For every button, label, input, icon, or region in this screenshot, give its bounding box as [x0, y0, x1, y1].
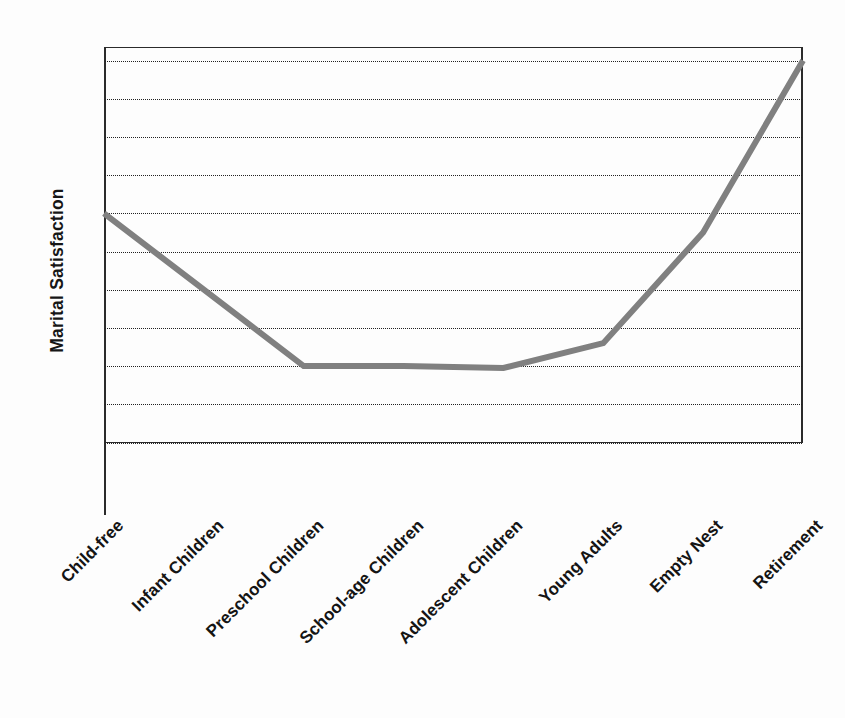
y-axis-title: Marital Satisfaction [40, 140, 74, 400]
plot-area [104, 47, 803, 515]
series-line-marital-satisfaction [104, 61, 803, 369]
x-tick-label: Empty Nest [646, 516, 727, 597]
x-tick-label: Young Adults [536, 516, 628, 608]
line-series-svg [100, 43, 807, 519]
chart-figure: Marital Satisfaction Child-freeInfant Ch… [0, 0, 845, 718]
y-axis-title-text: Marital Satisfaction [47, 188, 68, 352]
x-tick-label: Retirement [749, 516, 827, 594]
x-tick-label: Infant Children [128, 516, 228, 616]
x-tick-label: Child-free [57, 516, 128, 587]
x-axis-tick-labels: Child-freeInfant ChildrenPreschool Child… [0, 516, 845, 716]
